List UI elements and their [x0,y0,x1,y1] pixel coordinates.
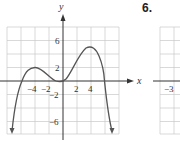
y-axis-arrow-icon [61,14,66,21]
x-axis-label: x [136,75,142,86]
x-axis-arrow-icon [127,79,134,84]
next-x-tick-label: −3 [164,84,174,94]
y-tick-label: −6 [49,117,59,127]
y-tick-label: −2 [49,90,59,100]
y-axis-label: y [58,1,64,12]
curve-arrow-right-icon [110,128,115,134]
x-tick-label: 4 [88,84,93,94]
graph-figure: x y −4 −2 2 4 6 2 −2 −6 6. −3 [0,0,180,143]
curve-arrow-left-icon [10,128,15,134]
y-tick-label: 6 [55,36,60,46]
x-tick-label: −4 [27,84,37,94]
problem-number: 6. [142,1,152,15]
x-tick-label: 2 [74,84,79,94]
y-tick-label: 2 [55,63,60,73]
